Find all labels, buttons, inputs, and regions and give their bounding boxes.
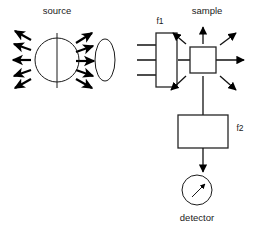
lens-ellipse	[95, 39, 115, 81]
source-group: source	[13, 5, 94, 88]
filter1-box	[156, 33, 177, 87]
lens-group	[95, 39, 115, 81]
detector-needle	[192, 184, 205, 197]
sample-group: sample	[171, 5, 244, 90]
filter2-box	[178, 115, 228, 148]
sample-box	[190, 47, 216, 73]
source-label: source	[43, 5, 72, 16]
optical-diagram-canvas: source f1	[0, 0, 257, 228]
source-emission-arrows-left	[13, 31, 31, 88]
filter2-group: f2	[178, 115, 244, 148]
filter2-label: f2	[236, 123, 243, 133]
diagram-svg: source f1	[0, 0, 257, 228]
sample-label: sample	[192, 5, 223, 16]
filter1-group: f1	[137, 16, 177, 87]
detector-label: detector	[180, 212, 214, 223]
detector-group: detector	[180, 175, 214, 223]
filter1-label: f1	[156, 16, 163, 26]
detector-meter-circle	[182, 175, 212, 205]
